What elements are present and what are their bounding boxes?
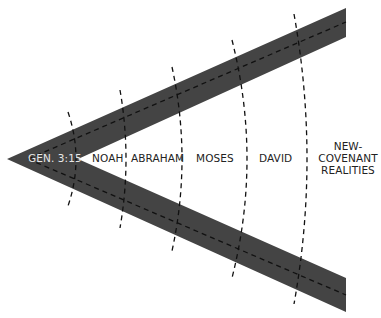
label-moses: MOSES	[196, 152, 234, 164]
label-abraham: ABRAHAM	[131, 152, 184, 164]
label-new-covenant-line1: NEW-	[318, 140, 378, 152]
label-new-covenant-line3: REALITIES	[318, 164, 378, 176]
label-new-covenant-realities: NEW- COVENANT REALITIES	[318, 140, 378, 176]
label-new-covenant-line2: COVENANT	[318, 152, 378, 164]
label-david: DAVID	[259, 152, 292, 164]
label-gen-3-15: GEN. 3:15	[28, 152, 82, 164]
label-noah: NOAH	[92, 152, 123, 164]
